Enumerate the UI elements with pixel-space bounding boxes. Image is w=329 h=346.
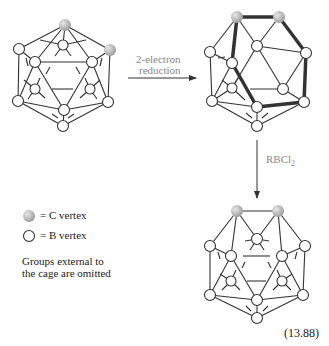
closo-c2b11-structure-3 [205, 205, 311, 324]
c-vertex-legend-icon [23, 210, 35, 222]
reaction-scheme [0, 0, 329, 346]
rbcl2-subscript: 2 [291, 159, 295, 168]
equation-number: (13.88) [284, 326, 319, 341]
nido-cage-structure-2 [205, 11, 312, 132]
b-vertex-legend-text: = B vertex [40, 229, 87, 241]
reduction-label-line2: reduction [139, 64, 181, 76]
c-vertex-legend-text: = C vertex [40, 209, 87, 221]
legend-note-line1: Groups external to [22, 255, 104, 267]
legend-note-line2: the cage are omitted [22, 267, 111, 279]
icosahedron-structure-1 [13, 19, 117, 132]
rbcl2-text: RBCl [266, 153, 291, 165]
rbcl2-label: RBCl2 [266, 153, 295, 168]
b-vertex-legend-icon [24, 231, 35, 242]
